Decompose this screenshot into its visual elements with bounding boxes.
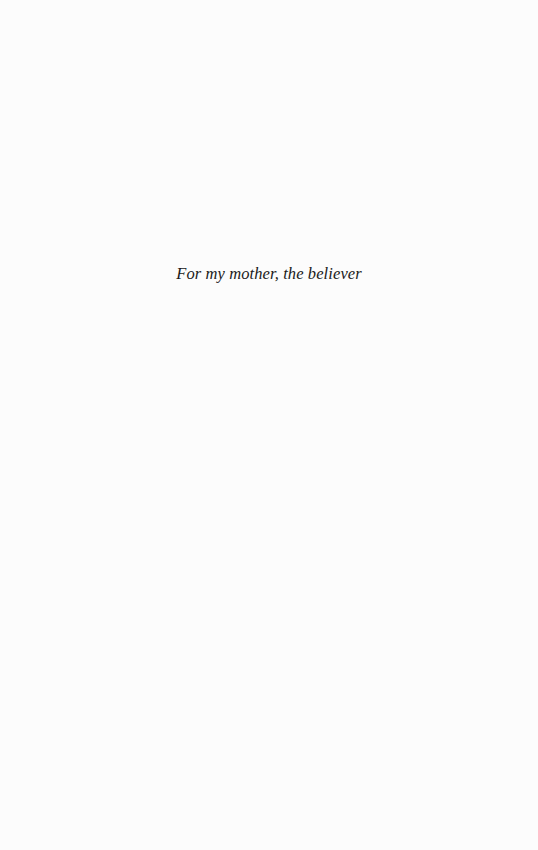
book-page: For my mother, the believer (0, 0, 538, 850)
dedication-text: For my mother, the believer (0, 263, 538, 285)
